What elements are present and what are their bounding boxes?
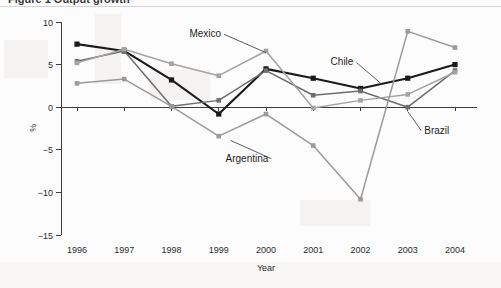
x-axis-tick-label: 1998 — [161, 245, 181, 255]
x-axis-tick-label: 2002 — [350, 245, 370, 255]
data-point-mexico-2002 — [358, 98, 363, 103]
x-axis-tick-label: 2000 — [256, 245, 276, 255]
data-point-mexico-2001 — [311, 106, 316, 111]
annotation-label: Argentina — [226, 153, 269, 164]
y-axis-tick-label: −5 — [43, 145, 53, 155]
data-point-argentina-1999 — [216, 134, 221, 139]
data-point-argentina-2003 — [405, 29, 410, 34]
annotation-label: Chile — [331, 56, 354, 67]
data-point-chile-2001 — [311, 76, 316, 81]
data-point-mexico-2003 — [405, 92, 410, 97]
data-point-argentina-1998 — [169, 104, 174, 109]
x-axis-tick-label: 1997 — [114, 245, 134, 255]
x-axis-title: Year — [257, 263, 275, 273]
annotation-label: Brazil — [424, 125, 449, 136]
figure-page: Figure 1 Output growth 1050−5−10−15%1996… — [0, 0, 501, 288]
data-point-brazil-2002 — [358, 89, 363, 94]
y-axis-tick-label: 5 — [48, 60, 53, 70]
series-line-brazil — [77, 51, 455, 107]
data-point-chile-1998 — [169, 77, 174, 82]
x-axis-tick-label: 2004 — [445, 245, 465, 255]
x-axis-tick-label: 1999 — [209, 245, 229, 255]
y-axis-tick-label: 0 — [48, 103, 53, 113]
data-point-chile-2003 — [405, 76, 410, 81]
series-annotation-brazil: Brazil — [408, 111, 450, 135]
data-point-argentina-1997 — [122, 77, 127, 82]
data-point-argentina-2002 — [358, 197, 363, 202]
data-point-brazil-1999 — [216, 98, 221, 103]
data-point-chile-1999 — [216, 111, 221, 116]
data-point-mexico-1999 — [216, 73, 221, 78]
data-point-chile-1996 — [74, 42, 79, 47]
series-line-mexico — [77, 49, 455, 108]
x-axis-tick-label: 2003 — [398, 245, 418, 255]
series-annotation-mexico: Mexico — [189, 28, 266, 52]
data-point-argentina-2004 — [453, 45, 458, 50]
chart-canvas: 1050−5−10−15%199619971998199920002001200… — [0, 7, 501, 288]
data-point-mexico-2004 — [453, 70, 458, 75]
series-annotation-argentina: Argentina — [226, 140, 272, 163]
data-point-mexico-1996 — [75, 61, 80, 66]
y-axis-title: % — [28, 124, 38, 132]
y-axis-tick-label: −15 — [38, 231, 53, 241]
data-point-argentina-2000 — [264, 112, 269, 117]
figure-caption-text: Figure 1 Output growth — [8, 0, 501, 5]
data-point-argentina-2001 — [311, 143, 316, 148]
x-axis-tick-label: 2001 — [303, 245, 323, 255]
data-point-brazil-2001 — [311, 93, 316, 98]
x-axis-tick-label: 1996 — [67, 245, 87, 255]
data-point-mexico-1997 — [122, 47, 127, 52]
annotation-leader-line — [224, 34, 266, 52]
data-point-chile-2004 — [452, 62, 457, 67]
annotation-leader-line — [408, 111, 422, 130]
data-point-argentina-1996 — [75, 81, 80, 86]
data-point-mexico-1998 — [169, 61, 174, 66]
annotation-label: Mexico — [189, 28, 221, 39]
data-point-brazil-2003 — [405, 105, 410, 110]
y-axis-tick-label: 10 — [43, 18, 53, 28]
data-point-brazil-2000 — [264, 68, 269, 73]
line-chart: 1050−5−10−15%199619971998199920002001200… — [0, 7, 501, 288]
annotation-leader-line — [356, 62, 381, 84]
y-axis-tick-label: −10 — [38, 188, 53, 198]
series-annotation-chile: Chile — [331, 56, 382, 84]
